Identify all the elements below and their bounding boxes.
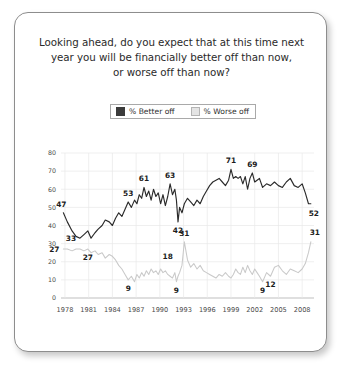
gridlines — [61, 153, 314, 298]
y-axis-tick-label: 10 — [48, 276, 56, 283]
data-point-label: 53 — [123, 189, 133, 198]
data-point-label: 9 — [174, 286, 179, 295]
x-axis-tick-label: 1984 — [104, 306, 121, 314]
x-axis-tick-label: 1999 — [223, 306, 240, 314]
data-point-label: 18 — [163, 252, 173, 261]
data-point-label: 27 — [49, 245, 59, 254]
data-point-label: 71 — [226, 156, 236, 165]
data-point-label: 33 — [66, 234, 76, 243]
y-axis-tick-label: 40 — [48, 222, 56, 229]
x-axis-tick-label: 1987 — [128, 306, 145, 314]
chart-svg: 01020304050607080 1978198119841987199019… — [15, 13, 327, 352]
x-axis-tick-label: 1996 — [199, 306, 216, 314]
x-axis-tick-label: 1978 — [57, 306, 74, 314]
x-axis-tick-label: 1990 — [151, 306, 168, 314]
data-point-label: 31 — [179, 229, 189, 238]
y-axis-tick-label: 0 — [52, 294, 56, 301]
x-axis-tick-label: 1981 — [80, 306, 97, 314]
y-axis-tick-label: 80 — [48, 149, 56, 156]
y-axis-tick-label: 20 — [48, 258, 56, 265]
x-axis-tick-label: 2002 — [246, 306, 263, 314]
y-axis-ticks: 01020304050607080 — [48, 149, 56, 301]
x-axis-tick-label: 2008 — [294, 306, 311, 314]
data-point-label: 9 — [126, 284, 131, 293]
data-point-label: 31 — [310, 228, 320, 237]
x-axis-ticks: 1978198119841987199019931996199920022005… — [57, 306, 311, 314]
data-point-label: 69 — [247, 160, 257, 169]
data-point-label: 12 — [265, 280, 275, 289]
data-point-label: 63 — [165, 171, 175, 180]
chart-card: Looking ahead, do you expect that at thi… — [14, 12, 327, 352]
x-axis-tick-label: 1993 — [175, 306, 192, 314]
data-point-label: 61 — [139, 174, 149, 183]
data-point-label: 27 — [83, 253, 93, 262]
x-axis-tick-label: 2005 — [270, 306, 287, 314]
plot-area: 01020304050607080 1978198119841987199019… — [15, 13, 327, 352]
data-point-label: 52 — [309, 209, 319, 218]
y-axis-tick-label: 70 — [48, 167, 56, 174]
y-axis-tick-label: 50 — [48, 204, 56, 211]
y-axis-tick-label: 60 — [48, 186, 56, 193]
data-point-label: 47 — [56, 200, 66, 209]
